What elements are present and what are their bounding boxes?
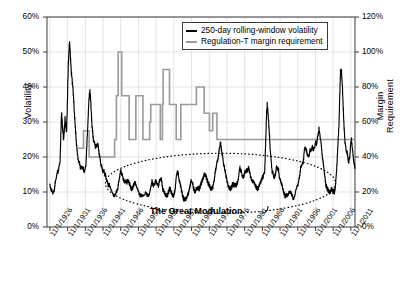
legend-item-volatility: 250-day rolling-window volatility xyxy=(186,25,323,36)
legend-label-volatility: 250-day rolling-window volatility xyxy=(201,25,318,36)
volatility-margin-chart: Volatility Margin Requirement 0%10%20%30… xyxy=(0,0,404,282)
legend-swatch-volatility xyxy=(186,30,197,32)
annotation-great-modulation: The Great Modulation xyxy=(150,206,243,216)
legend-label-margin: Regulation-T margin requirement xyxy=(201,36,323,47)
legend-swatch-margin xyxy=(186,41,197,43)
legend-item-margin: Regulation-T margin requirement xyxy=(186,36,323,47)
legend: 250-day rolling-window volatility Regula… xyxy=(182,22,328,50)
